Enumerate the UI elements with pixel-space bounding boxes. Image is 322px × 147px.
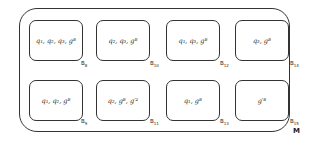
label-b8: B8 [81, 60, 87, 68]
box-b13-contents: q₁, gᴮ [184, 97, 202, 105]
box-b14: q₃, gᴮ [235, 20, 289, 61]
label-b13: B13 [220, 118, 229, 126]
box-b10: q₂, q₃, gᴮ [96, 20, 150, 61]
container-label-m: M [293, 127, 300, 135]
box-b12: q₁, q₃, gᴮ [166, 20, 220, 61]
label-b10: B10 [150, 60, 159, 68]
label-b14: B14 [290, 60, 299, 68]
label-b9: B9 [81, 118, 87, 126]
box-b15: g′ᴮ [235, 80, 289, 121]
box-b10-contents: q₂, q₃, gᴮ [109, 37, 138, 45]
box-b13: q₁, gᴮ [166, 80, 220, 121]
box-b8-contents: q₁, q₂, q₃, gᴮ [36, 37, 76, 45]
box-b8: q₁, q₂, q₃, gᴮ [29, 20, 83, 61]
label-b11: B11 [150, 118, 159, 126]
box-b9-contents: q₁, q₂, gᴮ [42, 97, 71, 105]
box-b14-contents: q₃, gᴮ [253, 37, 271, 45]
box-b9: q₁, q₂, gᴮ [29, 80, 83, 121]
box-b11: q₂, gᴮ, g′² [96, 80, 150, 121]
label-b15: B15 [290, 118, 299, 126]
label-b12: B12 [220, 60, 229, 68]
box-b11-contents: q₂, gᴮ, g′² [108, 97, 138, 105]
box-b12-contents: q₁, q₃, gᴮ [179, 37, 208, 45]
box-b15-contents: g′ᴮ [258, 97, 267, 105]
